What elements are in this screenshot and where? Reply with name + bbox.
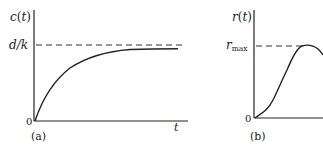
panel-a: c(t) d/k 0 t (a): [9, 10, 188, 143]
x-label-a: t: [174, 121, 179, 134]
c-curve: [35, 49, 178, 121]
y-label-b: r(t): [232, 10, 252, 24]
panel-label-a: (a): [31, 130, 46, 143]
asymptote-label: d/k: [9, 38, 28, 52]
y-label-a: c(t): [10, 10, 31, 24]
origin-label-a: 0: [26, 116, 32, 127]
origin-label-b: 0: [245, 113, 251, 124]
figure: c(t) d/k 0 t (a) r(t) rmax 0 (b): [0, 0, 323, 147]
panel-b: r(t) rmax 0 (b): [226, 10, 323, 143]
r-curve: [255, 45, 323, 118]
panel-label-b: (b): [250, 130, 266, 143]
max-label: rmax: [226, 38, 248, 53]
